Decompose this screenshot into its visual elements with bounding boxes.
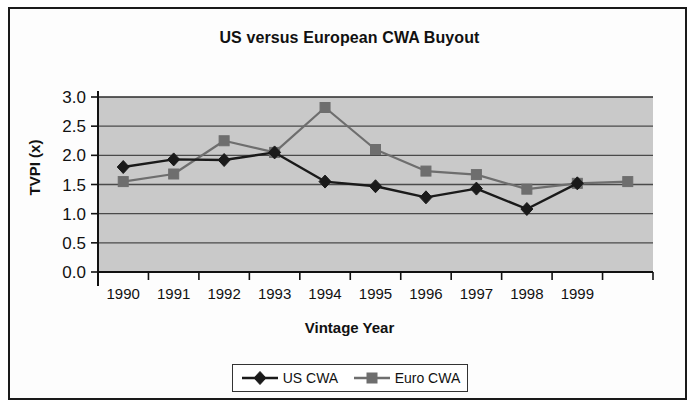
x-tick-label: 1996 bbox=[409, 285, 442, 302]
legend-marker bbox=[254, 372, 266, 385]
y-tick-label: 1.5 bbox=[62, 176, 86, 195]
data-point-marker bbox=[118, 177, 128, 187]
legend-item-us-cwa[interactable]: US CWA bbox=[240, 370, 338, 386]
data-point-marker bbox=[320, 103, 330, 113]
y-tick-label: 0.5 bbox=[62, 234, 86, 253]
chart-legend: US CWAEuro CWA bbox=[232, 364, 468, 392]
data-point-marker bbox=[219, 136, 229, 146]
chart-frame: US versus European CWA Buyout TVPI (x) 3… bbox=[8, 7, 687, 400]
x-tick-label: 1992 bbox=[207, 285, 240, 302]
data-point-marker bbox=[421, 166, 431, 176]
chart-plot-area: 3.02.52.01.51.00.50.01990199119921993199… bbox=[10, 9, 689, 319]
y-tick-label: 2.0 bbox=[62, 146, 86, 165]
y-tick-label: 2.5 bbox=[62, 117, 86, 136]
legend-label: US CWA bbox=[283, 370, 338, 386]
square-marker-icon bbox=[352, 370, 392, 386]
diamond-marker-icon bbox=[240, 370, 280, 386]
x-tick-label: 1994 bbox=[308, 285, 341, 302]
x-tick-label: 1998 bbox=[510, 285, 543, 302]
data-point-marker bbox=[169, 169, 179, 179]
x-tick-label: 1991 bbox=[157, 285, 190, 302]
x-axis-title: Vintage Year bbox=[10, 319, 689, 336]
data-point-marker bbox=[371, 145, 381, 155]
data-point-marker bbox=[522, 184, 532, 194]
legend-marker bbox=[367, 373, 377, 383]
y-tick-label: 3.0 bbox=[62, 88, 86, 107]
y-tick-label: 0.0 bbox=[62, 263, 86, 282]
x-tick-label: 1993 bbox=[258, 285, 291, 302]
x-tick-label: 1990 bbox=[107, 285, 140, 302]
x-tick-label: 1995 bbox=[359, 285, 392, 302]
y-tick-label: 1.0 bbox=[62, 205, 86, 224]
x-tick-label: 1997 bbox=[460, 285, 493, 302]
data-point-marker bbox=[623, 177, 633, 187]
x-tick-label: 1999 bbox=[561, 285, 594, 302]
data-point-marker bbox=[471, 170, 481, 180]
legend-item-euro-cwa[interactable]: Euro CWA bbox=[352, 370, 461, 386]
legend-label: Euro CWA bbox=[395, 370, 461, 386]
